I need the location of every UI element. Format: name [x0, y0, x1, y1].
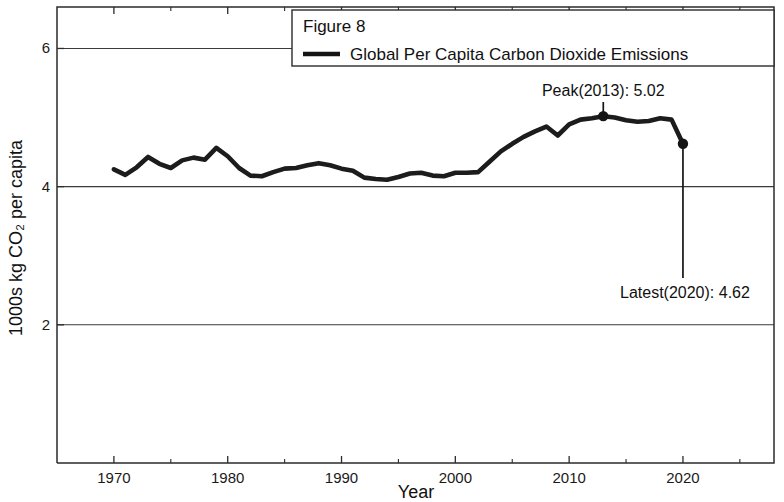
legend-series-label: Global Per Capita Carbon Dioxide Emissio…: [350, 45, 688, 64]
series-line-0: [114, 116, 683, 180]
x-tick-label-2010: 2010: [552, 469, 585, 486]
plot-frame: [57, 7, 774, 463]
x-tick-label-1980: 1980: [211, 469, 244, 486]
x-axis-ticks-group: 197019801990200020102020: [97, 7, 740, 486]
x-tick-label-1990: 1990: [325, 469, 358, 486]
y-tick-label-4: 4: [42, 178, 50, 195]
co2-per-capita-line-chart: 197019801990200020102020 246 Peak(2013):…: [0, 0, 784, 502]
annotations-group: Peak(2013): 5.02Latest(2020): 4.62: [542, 82, 750, 301]
chart-container: 197019801990200020102020 246 Peak(2013):…: [0, 0, 784, 502]
x-tick-label-2020: 2020: [666, 469, 699, 486]
y-axis-ticks-group: 246: [42, 39, 64, 332]
y-tick-label-2: 2: [42, 316, 50, 333]
x-tick-label-1970: 1970: [97, 469, 130, 486]
x-axis-title: Year: [398, 482, 434, 502]
annotation-label-peak: Peak(2013): 5.02: [542, 82, 665, 99]
y-tick-label-6: 6: [42, 39, 50, 56]
legend: Figure 8 Global Per Capita Carbon Dioxid…: [292, 10, 774, 66]
y-axis-title: 1000s kg CO₂ per capita: [6, 139, 26, 336]
annotation-label-latest: Latest(2020): 4.62: [620, 284, 750, 301]
data-series-group: [114, 116, 683, 180]
plot-border-group: [57, 7, 774, 463]
x-tick-label-2000: 2000: [439, 469, 472, 486]
legend-figure-label: Figure 8: [303, 17, 365, 36]
